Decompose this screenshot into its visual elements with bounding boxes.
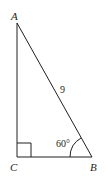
- triangle-diagram: A C B 9 60°: [0, 0, 106, 180]
- vertex-label-a: A: [10, 10, 18, 22]
- angle-label-b: 60°: [56, 138, 70, 149]
- vertex-label-c: C: [10, 161, 18, 173]
- hypotenuse-length-label: 9: [60, 84, 65, 95]
- angle-arc-b: [70, 138, 81, 157]
- right-angle-marker: [17, 143, 31, 157]
- vertex-label-b: B: [90, 161, 97, 173]
- triangle-abc: [17, 23, 92, 157]
